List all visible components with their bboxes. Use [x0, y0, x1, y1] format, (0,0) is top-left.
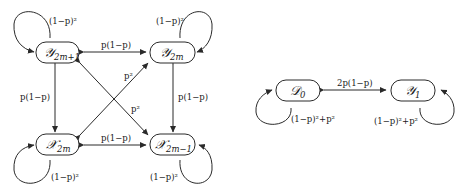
loop-label-d0: (1−p)²+p² [291, 114, 335, 124]
edge-label-top: p(1−p) [101, 40, 131, 50]
edge-top: p(1−p) [84, 40, 146, 52]
edge-label-bottom: p(1−p) [101, 133, 131, 143]
state-diagram-canvas: (1−p)² (1−p)² (1−p)² (1−p)² p(1−p) p(1−p… [0, 0, 469, 196]
edge-right: p(1−p) [173, 64, 208, 132]
right-markov-chain: (1−p)²+p² (1−p)²+p² 2p(1−p) 𝒟0 𝒴1 [256, 78, 454, 126]
node-y2m: 𝒴2m [150, 42, 195, 63]
edge-left: p(1−p) [20, 64, 55, 132]
node-x2m1: 𝒳2m−1 [150, 134, 195, 155]
loop-label-y2m1: (1−p)² [49, 16, 77, 26]
edge-label-right: p(1−p) [178, 92, 208, 102]
node-y1: 𝒴1 [391, 80, 435, 101]
edge-bottom: p(1−p) [84, 133, 146, 145]
loop-label-y2m: (1−p)² [156, 16, 184, 26]
edge-middle: 2p(1−p) [324, 78, 386, 90]
edge-label-left: p(1−p) [20, 92, 50, 102]
edge-label-diag-down: p² [131, 104, 140, 114]
loop-label-x2m: (1−p)² [51, 172, 79, 182]
left-markov-chain: (1−p)² (1−p)² (1−p)² (1−p)² p(1−p) p(1−p… [14, 12, 212, 184]
node-d0: 𝒟0 [276, 80, 320, 101]
node-y2m1: 𝒴2m+1 [36, 42, 80, 63]
loop-label-y1: (1−p)²+p² [374, 116, 418, 126]
edge-label-middle: 2p(1−p) [337, 78, 372, 88]
edge-label-diag-up: p² [124, 71, 133, 81]
node-x2m: 𝒳2m [36, 134, 79, 155]
loop-label-x2m1: (1−p)² [150, 172, 178, 182]
